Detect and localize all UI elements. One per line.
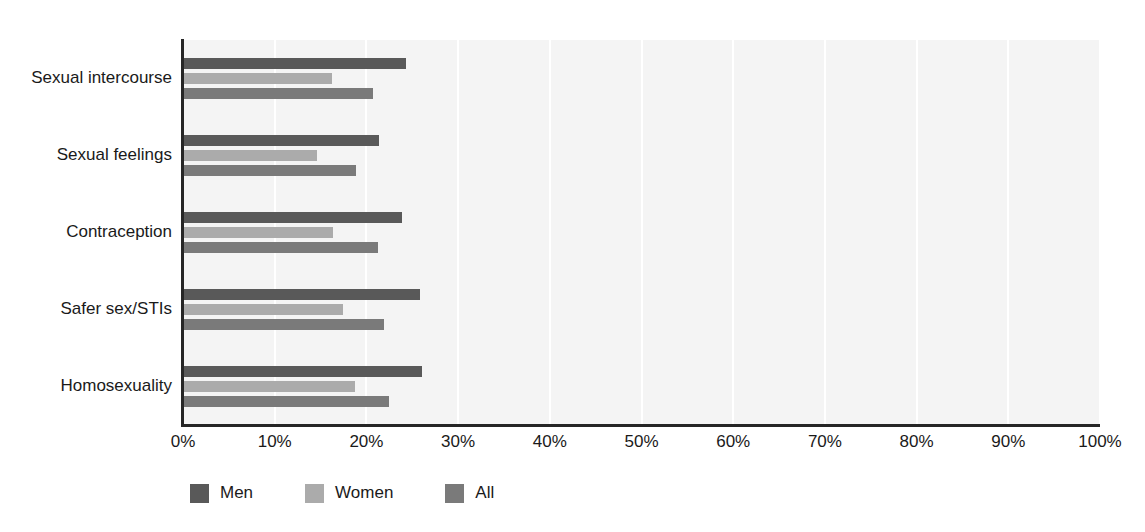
x-tick-label: 70% — [808, 432, 842, 452]
bar — [183, 73, 332, 84]
legend-item[interactable]: All — [445, 483, 494, 503]
bar-group — [183, 289, 1100, 334]
legend-label: All — [475, 483, 494, 503]
x-tick-label: 40% — [533, 432, 567, 452]
x-tick-label: 60% — [716, 432, 750, 452]
bar-row — [183, 289, 1100, 300]
x-tick-label: 100% — [1078, 432, 1121, 452]
bar — [183, 396, 389, 407]
bar — [183, 366, 422, 377]
bar-row — [183, 165, 1100, 176]
category-axis-labels: Sexual intercourseSexual feelingsContrac… — [0, 40, 172, 425]
bar-row — [183, 396, 1100, 407]
bar-row — [183, 381, 1100, 392]
bar-row — [183, 242, 1100, 253]
bar-group — [183, 135, 1100, 180]
bar — [183, 289, 420, 300]
bar — [183, 227, 333, 238]
bar-group — [183, 212, 1100, 257]
bar — [183, 135, 379, 146]
bar — [183, 242, 378, 253]
x-tick-label: 20% — [349, 432, 383, 452]
plot-area — [183, 40, 1100, 425]
x-tick-label: 80% — [900, 432, 934, 452]
bar — [183, 58, 406, 69]
category-label: Sexual feelings — [2, 145, 172, 165]
bar-chart: Sexual intercourseSexual feelingsContrac… — [0, 0, 1145, 532]
legend-item[interactable]: Men — [190, 483, 253, 503]
bar-group — [183, 58, 1100, 103]
x-tick-label: 50% — [624, 432, 658, 452]
bar-row — [183, 150, 1100, 161]
legend-item[interactable]: Women — [305, 483, 393, 503]
bar-row — [183, 88, 1100, 99]
bar-row — [183, 135, 1100, 146]
bar — [183, 304, 343, 315]
x-tick-label: 30% — [441, 432, 475, 452]
x-tick-label: 90% — [991, 432, 1025, 452]
bar — [183, 381, 355, 392]
legend-swatch-icon — [305, 484, 324, 503]
bar-row — [183, 319, 1100, 330]
bar — [183, 165, 356, 176]
bar — [183, 88, 373, 99]
bar-row — [183, 304, 1100, 315]
bar — [183, 150, 317, 161]
x-axis-line — [181, 424, 1100, 427]
x-tick-label: 0% — [171, 432, 196, 452]
legend-label: Men — [220, 483, 253, 503]
bar-row — [183, 73, 1100, 84]
category-label: Contraception — [2, 222, 172, 242]
bar-row — [183, 366, 1100, 377]
x-axis-tick-labels: 0%10%20%30%40%50%60%70%80%90%100% — [183, 432, 1100, 458]
bar-row — [183, 212, 1100, 223]
legend-label: Women — [335, 483, 393, 503]
category-label: Sexual intercourse — [2, 68, 172, 88]
legend-swatch-icon — [445, 484, 464, 503]
bar-row — [183, 58, 1100, 69]
x-tick-label: 10% — [258, 432, 292, 452]
chart-legend: MenWomenAll — [190, 483, 546, 503]
bar — [183, 319, 384, 330]
category-label: Homosexuality — [2, 376, 172, 396]
category-label: Safer sex/STIs — [2, 299, 172, 319]
bar-row — [183, 227, 1100, 238]
legend-swatch-icon — [190, 484, 209, 503]
bar — [183, 212, 402, 223]
bar-group — [183, 366, 1100, 411]
y-axis-line — [181, 39, 184, 426]
